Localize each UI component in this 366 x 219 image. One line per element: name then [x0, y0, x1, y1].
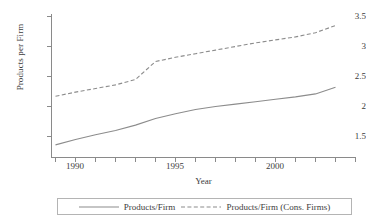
legend-label: Products/Firm (Cons. Firms): [226, 202, 330, 212]
x-axis: [51, 158, 356, 163]
chart-figure: Products per Firm 3.5 3 2.5 2 1.5: [0, 0, 366, 219]
legend-item-products-per-firm-cons: Products/Firm (Cons. Firms): [181, 202, 330, 212]
legend-key-solid-icon: [79, 204, 119, 210]
x-tick-label: 1995: [155, 162, 195, 171]
x-axis-title: Year: [51, 176, 356, 186]
chart-legend: Products/Firm Products/Firm (Cons. Firms…: [57, 198, 352, 215]
y-axis: [47, 14, 52, 157]
legend-item-products-per-firm: Products/Firm: [79, 202, 176, 212]
x-tick-label: 1990: [55, 162, 95, 171]
x-tick-label: 2000: [255, 162, 295, 171]
series-lines: [56, 26, 336, 145]
legend-key-dashed-icon: [181, 204, 221, 210]
legend-label: Products/Firm: [124, 202, 176, 212]
